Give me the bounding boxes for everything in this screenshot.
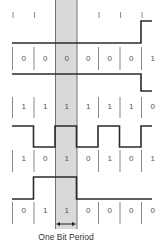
bit-period-highlight (56, 0, 78, 229)
bit-label: 0 (22, 206, 27, 215)
bit-label: 0 (129, 206, 134, 215)
bit-label: 1 (86, 102, 91, 111)
bit-label: 1 (129, 102, 134, 111)
waveform (12, 74, 152, 91)
signal-3: 1010101 (12, 126, 156, 172)
bit-label: 1 (151, 54, 156, 63)
bit-label: 0 (129, 54, 134, 63)
waveform (12, 126, 152, 147)
signal-rows: 0000001111111010101010110000 (12, 21, 156, 224)
bit-label: 0 (108, 54, 113, 63)
top-tick-marks (13, 12, 142, 18)
bit-label: 0 (22, 54, 27, 63)
bit-label: 1 (43, 102, 48, 111)
waveform (12, 177, 152, 199)
bit-label: 1 (22, 154, 27, 163)
bit-label: 1 (65, 206, 70, 215)
bit-label: 0 (43, 54, 48, 63)
signal-4: 0110000 (12, 177, 156, 224)
bit-label: 1 (108, 154, 113, 163)
timing-diagram: 0000001111111010101010110000 One Bit Per… (0, 0, 162, 251)
bit-label: 0 (86, 54, 91, 63)
waveform (12, 21, 152, 43)
bit-label: 1 (65, 154, 70, 163)
signal-1: 0000001 (12, 21, 156, 70)
bit-label: 0 (129, 154, 134, 163)
bit-label: 1 (151, 154, 156, 163)
bit-label: 1 (43, 206, 48, 215)
bit-label: 0 (108, 206, 113, 215)
bit-label: 0 (43, 154, 48, 163)
bit-label: 1 (108, 102, 113, 111)
bit-label: 0 (151, 206, 156, 215)
bit-label: 0 (86, 206, 91, 215)
bit-label: 1 (22, 102, 27, 111)
signal-2: 1111110 (12, 74, 156, 118)
bit-label: 0 (65, 54, 70, 63)
bit-label: 0 (86, 154, 91, 163)
bit-label: 1 (65, 102, 70, 111)
bit-label: 0 (151, 102, 156, 111)
bit-period-caption: One Bit Period (38, 232, 94, 242)
